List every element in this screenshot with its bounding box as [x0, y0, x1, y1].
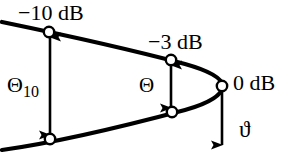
label-angle-axis: ϑ	[239, 118, 250, 141]
label-theta: Θ	[139, 75, 154, 96]
marker-minus-10-db-upper	[44, 27, 54, 37]
marker-minus-3-db-lower	[167, 107, 177, 117]
marker-minus-3-db-upper	[166, 55, 176, 65]
label-theta-10-subscript: 10	[23, 83, 39, 100]
marker-zero-db-vertex	[217, 81, 227, 91]
label-theta-10: Θ10	[7, 74, 39, 100]
label-minus-10-db: −10 dB	[18, 2, 84, 24]
label-theta-10-symbol: Θ	[7, 72, 23, 97]
label-zero-db: 0 dB	[233, 72, 275, 94]
marker-minus-10-db-lower	[45, 134, 55, 144]
label-minus-3-db: −3 dB	[148, 31, 203, 53]
antenna-beamwidth-diagram: −10 dB −3 dB 0 dB Θ10 Θ ϑ	[0, 0, 299, 156]
